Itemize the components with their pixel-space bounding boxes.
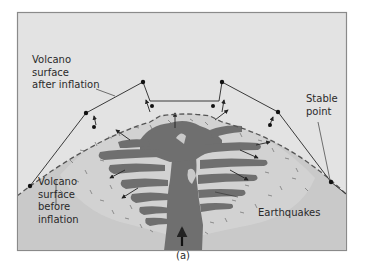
label-line: Volcano	[38, 176, 79, 189]
label-line: surface	[32, 67, 100, 80]
figure-caption: (a)	[176, 250, 190, 261]
label-earthquakes: Earthquakes	[258, 207, 320, 220]
label-line: surface	[38, 189, 79, 202]
label-line: after inflation	[32, 79, 100, 92]
label-line: Stable	[306, 93, 338, 106]
label-line: point	[306, 106, 338, 119]
label-after-inflation: Volcano surface after inflation	[32, 54, 100, 92]
label-line: before	[38, 201, 79, 214]
label-line: inflation	[38, 214, 79, 227]
label-stable-point: Stable point	[306, 93, 338, 118]
volcano-inflation-diagram	[0, 0, 370, 268]
label-line: Volcano	[32, 54, 100, 67]
label-before-inflation: Volcano surface before inflation	[38, 176, 79, 226]
